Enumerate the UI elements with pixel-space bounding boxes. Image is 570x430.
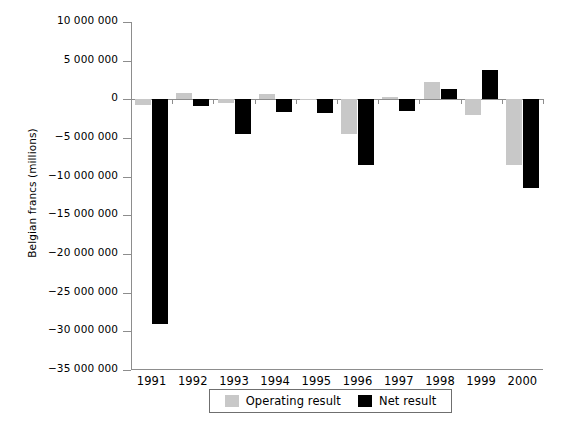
x-axis-line bbox=[131, 369, 543, 370]
bar bbox=[317, 99, 333, 113]
y-axis-tick-label: −25 000 000 bbox=[48, 285, 118, 297]
y-axis-tick-mark bbox=[123, 215, 131, 216]
bar bbox=[382, 97, 398, 99]
chart-legend: Operating resultNet result bbox=[209, 389, 452, 413]
bar bbox=[152, 99, 168, 323]
bar bbox=[218, 99, 234, 103]
y-axis-tick-label: −10 000 000 bbox=[48, 169, 118, 181]
bar bbox=[300, 99, 316, 100]
y-axis-tick-mark bbox=[123, 61, 131, 62]
bar bbox=[465, 99, 481, 114]
bar bbox=[276, 99, 292, 111]
y-axis-tick-mark bbox=[123, 99, 131, 100]
x-axis-tick-mark bbox=[543, 99, 544, 104]
bar bbox=[176, 93, 192, 99]
bar-chart: Belgian francs (millions) 10 000 0005 00… bbox=[0, 0, 570, 430]
y-axis-tick-label: −20 000 000 bbox=[48, 246, 118, 258]
y-axis-tick-mark bbox=[123, 22, 131, 23]
legend-swatch bbox=[225, 395, 239, 407]
y-axis-tick-mark bbox=[123, 177, 131, 178]
legend-entry: Net result bbox=[358, 394, 436, 408]
y-axis-tick-label: −30 000 000 bbox=[48, 323, 118, 335]
bar bbox=[341, 99, 357, 134]
bar bbox=[523, 99, 539, 188]
y-axis-tick-label: −35 000 000 bbox=[48, 362, 118, 374]
bar bbox=[235, 99, 251, 134]
y-axis-tick-label: 5 000 000 bbox=[64, 53, 118, 65]
y-axis-title: Belgian francs (millions) bbox=[26, 98, 38, 288]
y-axis-tick-mark bbox=[123, 331, 131, 332]
legend-entry: Operating result bbox=[225, 394, 341, 408]
legend-label: Operating result bbox=[246, 394, 341, 408]
bar bbox=[506, 99, 522, 165]
bar bbox=[482, 70, 498, 99]
y-axis-tick-label: 0 bbox=[111, 91, 118, 103]
bar bbox=[259, 94, 275, 99]
bar bbox=[358, 99, 374, 165]
bar bbox=[135, 99, 151, 104]
y-axis-tick-mark bbox=[123, 254, 131, 255]
x-axis-tick-label: 2000 bbox=[492, 374, 552, 388]
bar bbox=[424, 82, 440, 100]
bar bbox=[193, 99, 209, 105]
y-axis-tick-label: −5 000 000 bbox=[55, 130, 118, 142]
legend-swatch bbox=[358, 395, 372, 407]
legend-label: Net result bbox=[379, 394, 436, 408]
y-axis-tick-label: −15 000 000 bbox=[48, 207, 118, 219]
bar bbox=[441, 89, 457, 99]
y-axis-line bbox=[131, 22, 132, 370]
bar bbox=[399, 99, 415, 111]
y-axis-tick-mark bbox=[123, 293, 131, 294]
y-axis-tick-mark bbox=[123, 370, 131, 371]
y-axis-tick-label: 10 000 000 bbox=[57, 14, 118, 26]
y-axis-tick-mark bbox=[123, 138, 131, 139]
